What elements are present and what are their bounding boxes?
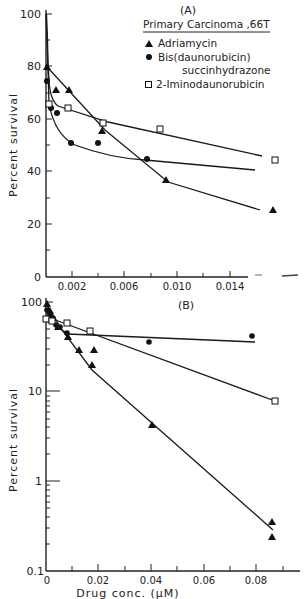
curve-imino-b	[47, 315, 275, 401]
panel-a: 100 80 60 40 20 0 0.002 0.006 0.010 0.01…	[7, 4, 298, 292]
panel-b-x-ticks	[72, 564, 283, 571]
panel-b-tag: (B)	[178, 299, 194, 312]
panel-a-xtick: 0.006	[110, 281, 139, 292]
figure: 100 80 60 40 20 0 0.002 0.006 0.010 0.01…	[0, 0, 306, 599]
panel-b-xtick: 0.02	[87, 575, 109, 586]
square-marker-icon	[146, 82, 152, 88]
panel-a-xtick: 0.014	[216, 281, 245, 292]
panel-a-bis-points	[44, 78, 150, 162]
legend-item-adriamycin: Adriamycin	[158, 37, 217, 49]
panel-a-xtick: 0.002	[58, 281, 87, 292]
panel-a-curves	[46, 14, 262, 210]
panel-b-bis-points	[44, 307, 255, 345]
panel-b-adriamycin-points	[43, 300, 276, 540]
circle-marker-icon	[146, 54, 152, 60]
legend-title: Primary Carcinoma ,66T	[143, 18, 270, 30]
panel-a-xtick: 0.010	[163, 281, 192, 292]
triangle-marker-icon	[145, 40, 153, 47]
panel-b-xtick: 0.04	[140, 575, 162, 586]
panel-a-ytick-100: 100	[20, 8, 41, 21]
panel-b-xtick: 0	[44, 575, 50, 586]
curve-adriamycin-b	[47, 305, 273, 530]
panel-b-ytick-0-1: 0.1	[27, 565, 45, 578]
panel-a-ytick-40: 40	[27, 165, 41, 178]
panel-a-y-label: Percent survival	[7, 93, 20, 197]
panel-a-x-ticks	[72, 271, 230, 277]
panel-b-xtick: 0.08	[245, 575, 267, 586]
panel-a-ytick-80: 80	[27, 60, 41, 73]
legend: Adriamycin Bis(daunorubicin) succinhydra…	[145, 37, 271, 90]
panel-b: 100 10 1 0.1 0 0.02 0.04 0.06 0.08 Drug …	[7, 296, 300, 599]
legend-item-bis-daunorubicin: Bis(daunorubicin)	[158, 51, 251, 63]
curve-bis-b	[47, 310, 255, 342]
legend-item-bis-daunorubicin-cont: succinhydrazone	[182, 64, 271, 76]
panel-b-x-label: Drug conc. (μM)	[76, 587, 179, 599]
panel-a-imino-points	[46, 101, 278, 163]
panel-a-ytick-60: 60	[27, 113, 41, 126]
panel-a-ytick-0: 0	[34, 271, 41, 284]
scan-artifact	[282, 275, 298, 276]
panel-b-y-label: Percent survival	[7, 388, 20, 492]
curve-adriamycin	[49, 69, 260, 210]
panel-b-xtick: 0.06	[193, 575, 215, 586]
panel-b-ytick-100: 100	[21, 296, 42, 309]
curve-bis	[49, 104, 255, 170]
panel-a-ytick-20: 20	[27, 218, 41, 231]
panel-b-ytick-10: 10	[28, 385, 42, 398]
panel-b-y-ticks	[46, 302, 60, 544]
curve-iminodaunorubicin	[49, 80, 262, 156]
panel-a-tag: (A)	[180, 4, 196, 17]
panel-b-imino-points	[43, 316, 278, 404]
panel-b-ytick-1: 1	[35, 475, 42, 488]
panel-b-curves	[47, 305, 275, 530]
legend-item-iminodaunorubicin: 2-Iminodaunorubicin	[156, 78, 265, 90]
